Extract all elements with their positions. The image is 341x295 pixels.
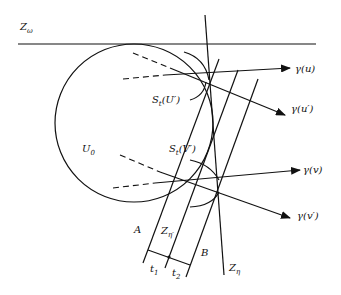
u0-circle: [55, 44, 213, 202]
label-b: B: [200, 247, 208, 258]
diagram: Zω U0 St(U′) St(V′) γ(u) γ(u′) γ(v) γ(v′…: [0, 0, 341, 295]
label-gamma-u-prime: γ(u′): [291, 103, 314, 114]
label-t2: t2: [172, 267, 181, 281]
ray-gamma-v-prime: [160, 172, 290, 218]
label-s-v: St(V′): [169, 143, 196, 157]
dash-v: [113, 183, 155, 188]
label-z-eta: Zη: [228, 262, 241, 276]
label-gamma-u: γ(u): [295, 63, 315, 74]
arc-s-v-upper: [190, 160, 219, 180]
dash-v-prime: [120, 155, 160, 172]
label-a: A: [133, 224, 141, 235]
label-s-u: St(U′): [152, 94, 180, 108]
label-gamma-v: γ(v): [303, 164, 323, 175]
label-gamma-v-prime: γ(v′): [297, 210, 319, 221]
t-measure-dot: [167, 255, 170, 258]
line-a: [143, 59, 219, 263]
z-eta-line: [205, 15, 224, 275]
label-z-omega: Zω: [19, 21, 33, 35]
dash-u-prime: [133, 53, 170, 68]
dash-u: [123, 75, 165, 79]
label-t1: t1: [150, 263, 159, 277]
label-u0: U0: [82, 143, 95, 157]
label-z-eta-prime: Zη′: [160, 225, 174, 239]
ray-gamma-u-prime: [170, 68, 285, 115]
